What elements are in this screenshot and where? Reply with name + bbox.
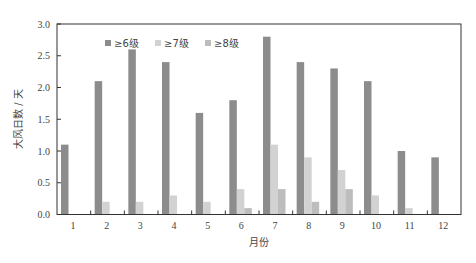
bar — [244, 208, 252, 214]
bar — [170, 195, 178, 214]
bars-group — [61, 37, 439, 215]
legend-label: ≥7级 — [164, 38, 189, 49]
x-tick-label: 2 — [104, 220, 109, 231]
bar — [263, 37, 271, 215]
bar — [304, 157, 312, 214]
bar — [271, 145, 279, 215]
bar — [431, 157, 439, 214]
y-tick-label: 1.0 — [38, 146, 51, 157]
y-axis-title: 大风日数 / 天 — [12, 89, 24, 149]
bar — [372, 195, 380, 214]
bar — [338, 170, 346, 214]
y-tick-label: 0.0 — [38, 209, 51, 220]
bar — [128, 49, 136, 214]
x-tick-label: 10 — [371, 220, 381, 231]
x-tick-label: 3 — [138, 220, 143, 231]
x-tick-label: 1 — [71, 220, 76, 231]
x-tick-label: 6 — [239, 220, 244, 231]
y-tick-label: 3.0 — [38, 19, 51, 30]
legend-swatch — [205, 40, 211, 46]
bar — [162, 62, 170, 214]
x-tick-label: 12 — [438, 220, 448, 231]
bar — [405, 208, 413, 214]
y-tick-label: 2.0 — [38, 82, 51, 93]
bar — [61, 145, 69, 215]
x-tick-label: 5 — [205, 220, 210, 231]
bar — [398, 151, 406, 215]
x-axis-title: 月份 — [249, 237, 269, 248]
bar — [312, 202, 320, 215]
bar — [297, 62, 305, 214]
x-tick-label: 9 — [340, 220, 345, 231]
bar-chart: 123456789101112 0.00.51.01.52.02.53.0 ≥6… — [0, 0, 476, 263]
bar — [229, 100, 237, 214]
bar — [237, 189, 245, 214]
y-tick-label: 2.5 — [38, 50, 51, 61]
legend: ≥6级≥7级≥8级 — [105, 38, 239, 49]
y-tick-label: 1.5 — [38, 114, 51, 125]
bar — [203, 202, 211, 215]
x-tick-label: 7 — [273, 220, 278, 231]
x-tick-label: 11 — [405, 220, 415, 231]
bar — [95, 81, 103, 214]
bar — [196, 113, 204, 215]
legend-swatch — [155, 40, 161, 46]
x-tick-label: 4 — [172, 220, 177, 231]
legend-label: ≥8级 — [214, 38, 239, 49]
bar — [330, 68, 338, 214]
legend-swatch — [105, 40, 111, 46]
legend-label: ≥6级 — [114, 38, 139, 49]
bar — [278, 189, 286, 214]
bar — [136, 202, 144, 215]
bar — [364, 81, 372, 214]
y-tick-label: 0.5 — [38, 177, 51, 188]
x-tick-label: 8 — [306, 220, 311, 231]
bar — [345, 189, 353, 214]
x-axis: 123456789101112 — [71, 211, 449, 232]
bar — [102, 202, 110, 215]
